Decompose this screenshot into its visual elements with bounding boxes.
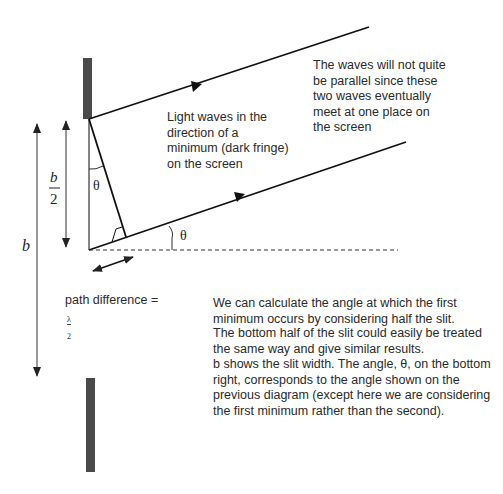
path-difference-text: path difference = [65, 293, 158, 307]
theta-label-top: θ [93, 178, 100, 193]
slit-barrier-bottom [86, 378, 95, 472]
explanation-paragraph-3: b shows the slit width. The angle, θ, on… [213, 357, 503, 419]
lambda-numerator: λ [67, 316, 71, 325]
theta-arc-bottom [169, 226, 173, 250]
slit-barrier-top [83, 58, 92, 119]
theta-label-bottom: θ [180, 228, 187, 243]
b-half-denominator: 2 [50, 191, 58, 207]
path-difference-arrow [93, 257, 133, 271]
theta-arc-top [89, 166, 103, 169]
light-waves-annotation: Light waves in the direction of a minimu… [167, 110, 307, 172]
not-parallel-annotation: The waves will not quite be parallel sin… [313, 58, 503, 136]
slit-width-label: b [22, 237, 30, 254]
path-difference-label: path difference = λ 2 [65, 277, 158, 349]
lambda-over-two-fraction: λ 2 [67, 308, 71, 349]
lambda-denominator: 2 [67, 333, 71, 341]
b-half-numerator: b [50, 169, 58, 185]
explanation-paragraph-1: We can calculate the angle at which the … [213, 296, 503, 327]
explanation-paragraph-2: The bottom half of the slit could easily… [213, 326, 503, 357]
